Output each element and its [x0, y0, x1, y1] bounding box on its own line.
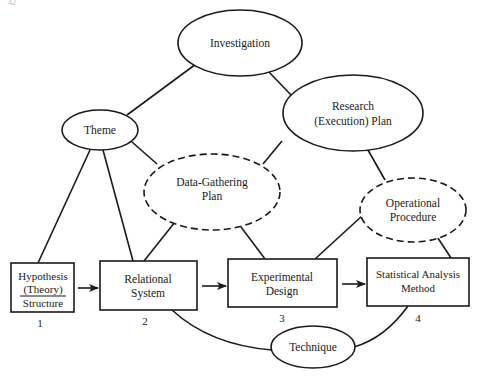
technique-label: Technique: [289, 341, 337, 354]
hypothesis-label-line3: Structure: [23, 297, 63, 309]
edge-data-gathering-relational-system: [144, 222, 175, 261]
node-statistical-analysis: Statistical Analysis Method 4: [367, 258, 469, 324]
edge-data-gathering-experimental-design: [241, 227, 265, 259]
edge-theme-relational-system: [103, 150, 133, 261]
research-plan-label-line1: Research: [332, 100, 374, 112]
edge-investigation-research-plan: [268, 71, 292, 96]
operational-procedure-ellipse: [360, 178, 466, 242]
relational-system-step-number: 2: [142, 315, 148, 327]
data-gathering-plan-label-line1: Data-Gathering: [176, 176, 248, 189]
operational-procedure-label-line2: Procedure: [390, 211, 437, 223]
data-gathering-plan-label-line2: Plan: [202, 190, 223, 202]
statistical-analysis-label-line2: Method: [401, 282, 436, 294]
research-plan-ellipse: [283, 75, 423, 151]
hypothesis-step-number: 1: [37, 317, 43, 329]
node-experimental-design: Experimental Design 3: [228, 259, 337, 324]
edge-relational-system-technique: [172, 310, 272, 350]
page-marker: 42: [8, 0, 16, 7]
statistical-analysis-step-number: 4: [415, 312, 421, 324]
experimental-design-label-line1: Experimental: [251, 271, 313, 284]
node-investigation: Investigation: [178, 10, 302, 76]
edge-operational-procedure-experimental-design: [315, 216, 362, 259]
node-theme: Theme: [62, 110, 138, 150]
edge-theme-hypothesis: [38, 150, 90, 263]
node-research-plan: Research (Execution) Plan: [283, 75, 423, 151]
experimental-design-step-number: 3: [279, 312, 285, 324]
node-technique: Technique: [271, 326, 355, 368]
node-operational-procedure: Operational Procedure: [360, 178, 466, 242]
edge-investigation-theme: [127, 64, 196, 115]
hypothesis-label-line2: (Theory): [23, 283, 62, 296]
edge-theme-data-gathering: [132, 142, 157, 164]
theme-label: Theme: [84, 124, 116, 136]
relational-system-label-line1: Relational: [124, 273, 171, 285]
research-plan-label-line2: (Execution) Plan: [314, 115, 392, 128]
node-relational-system: Relational System 2: [100, 261, 197, 327]
edge-research-plan-operational-procedure: [368, 150, 385, 180]
edge-research-plan-data-gathering: [263, 141, 282, 164]
node-data-gathering-plan: Data-Gathering Plan: [144, 154, 280, 230]
investigation-label: Investigation: [210, 37, 270, 50]
relational-system-box: [100, 261, 197, 310]
node-hypothesis: Hypothesis (Theory) Structure 1: [11, 263, 74, 329]
relational-system-label-line2: System: [131, 287, 165, 300]
research-process-diagram: 42 Investigation: [0, 0, 477, 377]
operational-procedure-label-line1: Operational: [386, 197, 440, 210]
experimental-design-box: [228, 259, 337, 307]
hypothesis-label-line1: Hypothesis: [18, 270, 68, 282]
experimental-design-label-line2: Design: [266, 285, 299, 298]
statistical-analysis-label-line1: Statistical Analysis: [376, 268, 460, 280]
edge-statistical-analysis-technique: [354, 306, 408, 347]
